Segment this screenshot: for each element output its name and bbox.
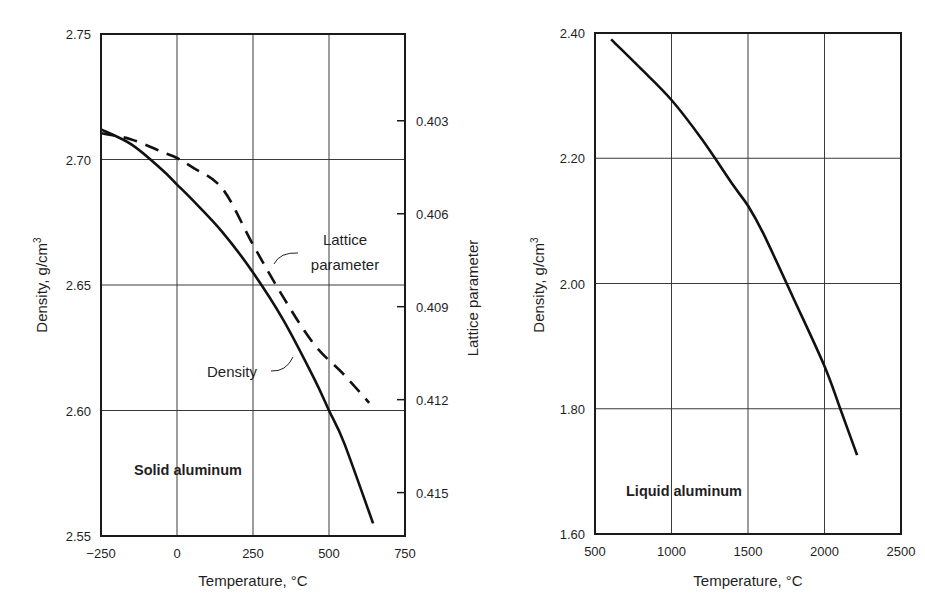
x-tick-label: 500: [318, 546, 340, 561]
lattice-annotation: Lattice: [323, 231, 367, 248]
density-annotation: Density: [207, 363, 258, 380]
y-tick-label: 2.65: [66, 278, 91, 293]
y-axis-ticks: 1.601.802.002.202.40: [560, 26, 585, 542]
x-axis-ticks: 5001000150020002500: [584, 544, 915, 559]
x-axis-title: Temperature, °C: [198, 572, 308, 589]
y-tick-label: 2.60: [66, 404, 91, 419]
liquid-aluminum-chart: 5001000150020002500 1.601.802.002.202.40…: [529, 26, 915, 589]
x-tick-label: 750: [394, 546, 416, 561]
y-tick-label: 2.40: [560, 26, 585, 41]
x-axis-ticks: −2500250500750: [86, 546, 416, 561]
y-axis-title: Density, g/cm3: [529, 237, 547, 333]
x-tick-label: 2500: [887, 544, 916, 559]
y-tick-label: 2.55: [66, 529, 91, 544]
y-axis-ticks: 2.552.602.652.702.75: [66, 27, 91, 544]
figure: −2500250500750 2.552.602.652.702.75 0.40…: [0, 0, 925, 610]
right-tick-label: 0.406: [416, 207, 449, 222]
y-tick-label: 1.80: [560, 402, 585, 417]
y-tick-label: 2.20: [560, 151, 585, 166]
x-tick-label: 0: [173, 546, 180, 561]
x-axis-title: Temperature, °C: [693, 572, 803, 589]
panel-label: Liquid aluminum: [626, 483, 742, 499]
x-tick-label: 2000: [810, 544, 839, 559]
lattice-annotation-line2: parameter: [311, 256, 379, 273]
x-tick-label: 1000: [657, 544, 686, 559]
solid-aluminum-chart: −2500250500750 2.552.602.652.702.75 0.40…: [32, 27, 481, 589]
right-tick-label: 0.409: [416, 300, 449, 315]
grid-lines: [595, 33, 901, 534]
y-tick-label: 2.00: [560, 277, 585, 292]
y-tick-label: 2.70: [66, 153, 91, 168]
y-axis-title: Density, g/cm3: [32, 237, 50, 333]
y-tick-label: 2.75: [66, 27, 91, 42]
x-tick-label: 1500: [734, 544, 763, 559]
data-series: [611, 39, 857, 455]
x-tick-label: 500: [584, 544, 606, 559]
density-curve: [611, 39, 857, 455]
right-tick-label: 0.412: [416, 393, 449, 408]
x-tick-label: −250: [86, 546, 115, 561]
lattice-leader-line: [274, 253, 298, 264]
grid-lines: [101, 34, 405, 536]
panel-label: Solid aluminum: [134, 462, 242, 478]
x-tick-label: 250: [242, 546, 264, 561]
right-tick-label: 0.403: [416, 114, 449, 129]
y-tick-label: 1.60: [560, 527, 585, 542]
density-leader-line: [271, 357, 293, 371]
right-axis-title: Lattice parameter: [464, 240, 481, 357]
right-tick-label: 0.415: [416, 486, 449, 501]
